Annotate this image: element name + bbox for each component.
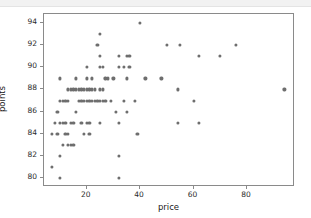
data-point <box>179 43 182 46</box>
y-tick-label: 90 <box>11 62 37 70</box>
x-tick-label: 60 <box>178 191 208 199</box>
y-tick-label: 92 <box>11 40 37 48</box>
data-point <box>115 110 118 113</box>
data-point <box>136 132 139 135</box>
data-point <box>219 55 222 58</box>
scatter-plot-figure: points price 8082848688909294 20406080 <box>0 0 311 218</box>
data-point <box>85 77 88 80</box>
data-point <box>56 110 59 113</box>
data-point <box>101 88 104 91</box>
data-point <box>128 55 131 58</box>
data-point <box>197 121 200 124</box>
x-tick-label: 80 <box>231 191 261 199</box>
data-point <box>98 121 101 124</box>
data-point <box>123 66 126 69</box>
plot-area <box>43 13 294 186</box>
y-tick-label: 84 <box>11 129 37 137</box>
data-point <box>93 88 96 91</box>
data-point <box>58 154 61 157</box>
data-point <box>90 77 93 80</box>
data-point <box>128 66 131 69</box>
data-point <box>117 177 120 180</box>
data-point <box>66 132 69 135</box>
x-tick-mark <box>139 186 140 189</box>
data-point <box>176 88 179 91</box>
data-point <box>101 66 104 69</box>
data-point <box>88 121 91 124</box>
data-point <box>283 88 286 91</box>
data-point <box>74 110 77 113</box>
y-tick-label: 82 <box>11 151 37 159</box>
data-point <box>197 55 200 58</box>
x-tick-label: 20 <box>71 191 101 199</box>
data-point <box>64 121 67 124</box>
data-point <box>176 121 179 124</box>
y-tick-label: 86 <box>11 107 37 115</box>
data-point <box>98 55 101 58</box>
data-point <box>235 43 238 46</box>
data-point <box>109 99 112 102</box>
top-decorative-divider <box>0 6 311 7</box>
data-point <box>80 121 83 124</box>
x-axis-label: price <box>43 203 294 212</box>
y-tick-label: 80 <box>11 173 37 181</box>
data-point <box>160 77 163 80</box>
data-point <box>117 154 120 157</box>
data-point <box>125 77 128 80</box>
x-tick-label: 40 <box>124 191 154 199</box>
data-point <box>117 55 120 58</box>
data-point <box>133 99 136 102</box>
data-point <box>72 143 75 146</box>
data-point <box>85 66 88 69</box>
data-point <box>117 121 120 124</box>
data-point <box>53 121 56 124</box>
x-tick-mark <box>86 186 87 189</box>
data-point <box>66 99 69 102</box>
x-tick-mark <box>193 186 194 189</box>
data-point <box>50 165 53 168</box>
data-point <box>98 32 101 35</box>
data-point <box>112 77 115 80</box>
data-point <box>144 77 147 80</box>
data-point <box>74 77 77 80</box>
data-point <box>72 121 75 124</box>
data-point <box>125 110 128 113</box>
data-point <box>192 99 195 102</box>
y-tick-label: 88 <box>11 85 37 93</box>
data-point <box>104 99 107 102</box>
data-point <box>50 132 53 135</box>
x-tick-mark <box>246 186 247 189</box>
data-point <box>56 132 59 135</box>
y-tick-label: 94 <box>11 18 37 26</box>
data-point <box>106 77 109 80</box>
data-point <box>139 21 142 24</box>
data-point <box>61 143 64 146</box>
data-point <box>82 132 85 135</box>
data-point <box>58 77 61 80</box>
data-point <box>58 177 61 180</box>
data-point <box>117 66 120 69</box>
y-axis-label: points <box>0 86 6 112</box>
data-point <box>123 99 126 102</box>
data-point <box>165 43 168 46</box>
data-point <box>96 43 99 46</box>
data-point <box>88 132 91 135</box>
